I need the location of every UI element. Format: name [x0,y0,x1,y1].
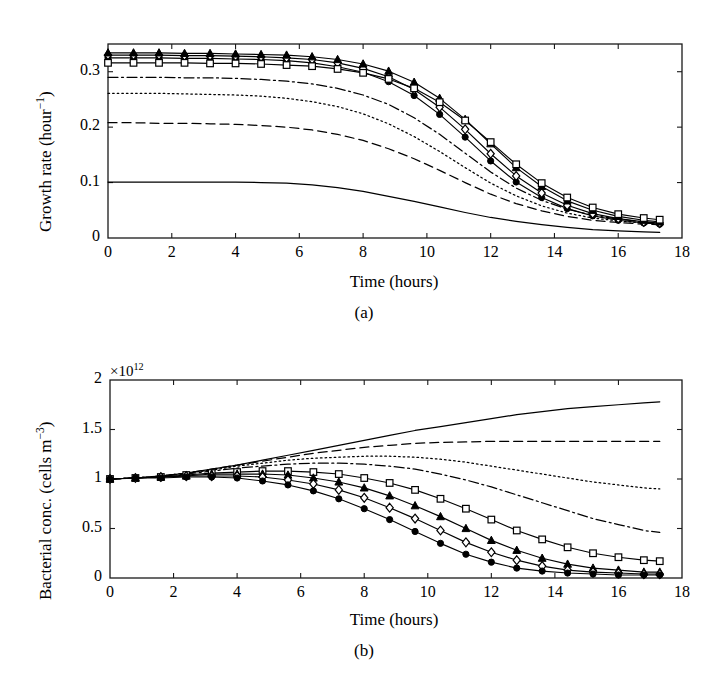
data-point-marker [462,538,469,547]
data-point-marker [462,134,468,140]
data-point-marker [385,76,392,83]
series-line [110,477,660,575]
panel-a-xlabel: Time (hours) [294,272,494,292]
data-point-marker [158,475,164,481]
data-point-marker [258,61,265,68]
data-point-marker [209,474,215,480]
data-point-marker [334,66,341,73]
series-circle-marker [107,474,663,578]
data-point-marker [564,544,571,551]
data-point-marker [615,572,621,578]
data-point-marker [361,506,367,512]
data-point-marker [309,63,316,70]
data-point-marker [156,60,163,67]
panel-a-caption: (a) [334,303,394,323]
y-tick-label: 0.3 [58,61,100,79]
data-point-marker [207,60,214,67]
data-point-marker [488,559,494,565]
data-point-marker [107,476,113,482]
data-point-marker [259,478,265,484]
data-point-marker [132,475,138,481]
panel-a: Growth rate (hour−1) Time (hours) (a) 02… [0,0,728,345]
y-tick-label: 0.5 [60,518,102,536]
data-point-marker [487,536,495,543]
x-tick-label: 16 [603,583,633,601]
series-dotted-line [110,456,660,489]
x-tick-label: 18 [667,243,697,261]
x-tick-label: 2 [157,243,187,261]
data-point-marker [436,99,443,106]
x-tick-label: 10 [412,243,442,261]
data-point-marker [285,482,291,488]
series-line [110,474,660,572]
series-dashed-line [108,123,660,225]
series-line [108,58,660,224]
data-point-marker [641,572,647,578]
y-tick-label: 1 [60,468,102,486]
x-tick-label: 2 [159,583,189,601]
data-point-marker [335,485,342,494]
data-point-marker [488,516,495,523]
series-line [110,471,660,561]
panel-b: Bacterial conc. (cells m−3) ×1012 Time (… [0,345,728,694]
data-point-marker [657,572,663,578]
data-point-marker [513,172,520,181]
data-point-marker [437,540,443,546]
data-point-marker [234,475,240,481]
data-point-marker [283,62,290,69]
data-point-marker [411,514,418,523]
data-point-marker [615,211,622,218]
data-point-marker [387,516,393,522]
panel-b-plot [0,373,728,643]
data-point-marker [656,558,663,565]
series-line [108,123,660,225]
data-point-marker [615,554,622,561]
data-point-marker [410,78,418,85]
data-point-marker [513,556,520,565]
data-point-marker [411,85,418,92]
x-tick-label: 0 [93,243,123,261]
figure-container: Growth rate (hour−1) Time (hours) (a) 02… [0,0,728,694]
series-line [108,63,660,220]
x-tick-label: 6 [284,243,314,261]
data-point-marker [412,528,418,534]
panel-b-caption: (b) [334,641,394,661]
y-tick-label: 0.1 [58,172,100,190]
data-point-marker [641,557,648,564]
data-point-marker [656,216,663,223]
y-tick-label: 2 [60,369,102,387]
series-line [110,456,660,489]
x-tick-label: 4 [221,243,251,261]
data-point-marker [463,505,470,512]
data-point-marker [310,488,316,494]
x-tick-label: 6 [286,583,316,601]
data-point-marker [513,527,520,534]
data-point-marker [513,161,520,168]
x-tick-label: 8 [349,583,379,601]
data-point-marker [412,487,419,494]
data-point-marker [437,526,444,535]
data-point-marker [488,548,495,557]
data-point-marker [183,474,189,480]
x-tick-label: 12 [476,583,506,601]
series-line [108,182,660,232]
data-point-marker [538,180,545,187]
x-tick-label: 14 [539,243,569,261]
data-point-marker [462,524,470,531]
x-tick-label: 18 [667,583,697,601]
x-tick-label: 4 [222,583,252,601]
series-square-marker [105,60,663,223]
series-line [110,476,660,574]
y-tick-label: 0 [58,227,100,245]
x-tick-label: 8 [348,243,378,261]
data-point-marker [386,503,393,512]
data-point-marker [336,496,342,502]
panel-a-plot [0,0,728,280]
data-point-marker [130,60,137,67]
y-tick-label: 1.5 [60,419,102,437]
data-point-marker [437,496,444,503]
data-point-marker [589,204,596,211]
data-point-marker [514,565,520,571]
data-point-marker [564,194,571,201]
x-tick-label: 12 [476,243,506,261]
